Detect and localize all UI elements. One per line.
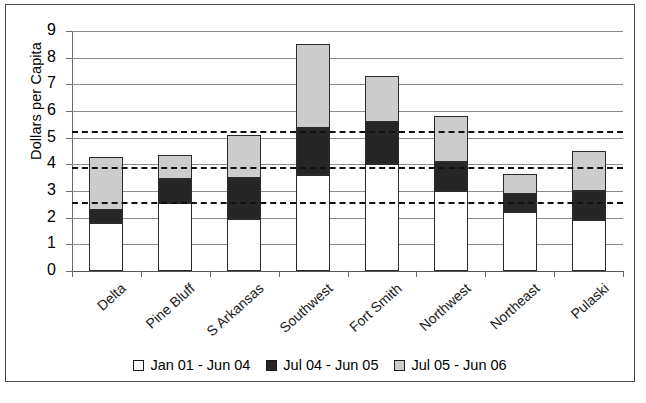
y-axis-tick-label: 8 xyxy=(28,49,56,65)
y-axis-tick-label: 9 xyxy=(28,22,56,38)
y-axis-tick-label: 0 xyxy=(28,262,56,278)
y-axis-tick-label: 6 xyxy=(28,102,56,118)
bar-segment[interactable] xyxy=(503,212,537,271)
bar-segment[interactable] xyxy=(434,116,468,161)
bar-group[interactable] xyxy=(89,31,123,271)
bar-segment[interactable] xyxy=(158,203,192,271)
x-axis-label-text: S Arkansas xyxy=(204,280,267,339)
y-axis-tick-label: 2 xyxy=(28,209,56,225)
gridline xyxy=(72,138,623,139)
x-axis-label-text: Pine Bluff xyxy=(143,280,198,332)
bar-segment[interactable] xyxy=(365,122,399,165)
y-axis-tick-label: 3 xyxy=(28,182,56,198)
bar-group[interactable] xyxy=(227,31,261,271)
legend-label: Jul 04 - Jun 05 xyxy=(283,357,378,373)
bar-segment[interactable] xyxy=(365,164,399,271)
legend-item[interactable]: Jul 04 - Jun 05 xyxy=(266,357,378,373)
chart-legend: Jan 01 - Jun 04Jul 04 - Jun 05Jul 05 - J… xyxy=(6,357,634,373)
legend-label: Jan 01 - Jun 04 xyxy=(150,357,250,373)
y-axis-tick-label: 1 xyxy=(28,235,56,251)
x-axis-tick xyxy=(623,271,624,277)
bar-group[interactable] xyxy=(158,31,192,271)
bar-segment[interactable] xyxy=(572,191,606,220)
gridline xyxy=(72,31,623,32)
bar-segment[interactable] xyxy=(572,151,606,191)
legend-swatch-icon xyxy=(133,360,144,371)
gridline xyxy=(72,244,623,245)
x-axis-labels: DeltaPine BluffS ArkansasSouthwestFort S… xyxy=(72,272,623,352)
y-axis-tick-label: 4 xyxy=(28,155,56,171)
gridline xyxy=(72,164,623,165)
y-axis-tick-label: 7 xyxy=(28,75,56,91)
x-axis-label-text: Fort Smith xyxy=(346,280,405,335)
x-axis-label-text: Northwest xyxy=(416,280,474,334)
bar-group[interactable] xyxy=(296,31,330,271)
x-axis-label-text: Southwest xyxy=(276,280,335,336)
bar-group[interactable] xyxy=(434,31,468,271)
bar-group[interactable] xyxy=(503,31,537,271)
x-axis-label-text: Northeast xyxy=(487,280,543,333)
legend-swatch-icon xyxy=(394,360,405,371)
bar-group[interactable] xyxy=(365,31,399,271)
bar-segment[interactable] xyxy=(296,175,330,271)
bar-segment[interactable] xyxy=(158,179,192,203)
gridline xyxy=(72,84,623,85)
gridline xyxy=(72,58,623,59)
bar-segment[interactable] xyxy=(89,223,123,271)
bar-segment[interactable] xyxy=(296,44,330,128)
bar-segment[interactable] xyxy=(227,135,261,178)
legend-item[interactable]: Jul 05 - Jun 06 xyxy=(394,357,506,373)
reference-line xyxy=(72,167,623,169)
reference-line xyxy=(72,131,623,133)
x-axis-label-text: Pulaski xyxy=(567,280,611,322)
x-axis-label-text: Delta xyxy=(94,280,129,314)
legend-label: Jul 05 - Jun 06 xyxy=(411,357,506,373)
bar-segment[interactable] xyxy=(503,174,537,194)
gridline xyxy=(72,218,623,219)
reference-line xyxy=(72,202,623,204)
bar-segment[interactable] xyxy=(89,210,123,223)
plot-area xyxy=(72,31,623,271)
bar-group[interactable] xyxy=(572,31,606,271)
bar-segment[interactable] xyxy=(227,219,261,271)
chart-frame: Dollars per Capita 9876543210 DeltaPine … xyxy=(5,4,635,382)
bar-segment[interactable] xyxy=(365,76,399,121)
bar-segment[interactable] xyxy=(572,220,606,271)
legend-item[interactable]: Jan 01 - Jun 04 xyxy=(133,357,250,373)
y-axis-tick-label: 5 xyxy=(28,129,56,145)
bar-segment[interactable] xyxy=(227,178,261,219)
gridline xyxy=(72,111,623,112)
legend-swatch-icon xyxy=(266,360,277,371)
gridline xyxy=(72,191,623,192)
